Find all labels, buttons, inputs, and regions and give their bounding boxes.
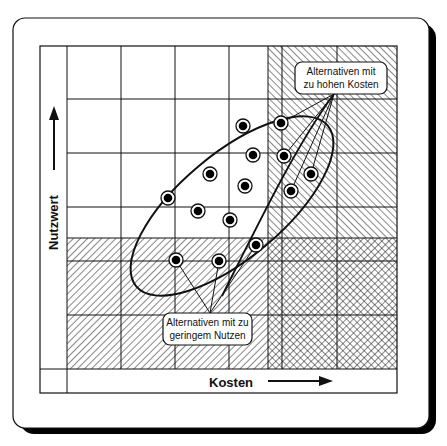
point	[212, 254, 226, 268]
point	[203, 167, 217, 181]
point	[238, 179, 252, 193]
point	[161, 191, 175, 205]
callout-high-cost: Alternativen mit zu hohen Kosten	[295, 62, 387, 94]
point	[246, 148, 260, 162]
point	[169, 253, 183, 267]
x-axis-label: Kosten	[209, 375, 253, 390]
nutzwert-kosten-diagram: Alternativen mit zu hohen Kosten Alterna…	[0, 0, 447, 446]
point	[191, 204, 205, 218]
callout-low-benefit-line1: Alternativen mit zu	[166, 317, 248, 328]
point	[277, 149, 291, 163]
region-too-low-benefit	[67, 238, 268, 369]
point	[223, 213, 237, 227]
point	[236, 119, 250, 133]
point	[284, 184, 298, 198]
callout-low-benefit: Alternativen mit zu geringem Nutzen	[163, 313, 252, 345]
region-both	[268, 238, 397, 369]
point	[249, 238, 263, 252]
callout-high-cost-line1: Alternativen mit	[307, 66, 376, 77]
point	[274, 116, 288, 130]
callout-high-cost-line2: zu hohen Kosten	[303, 79, 378, 90]
y-axis-label: Nutzwert	[46, 194, 61, 250]
point	[304, 167, 318, 181]
callout-low-benefit-line2: geringem Nutzen	[169, 330, 245, 341]
